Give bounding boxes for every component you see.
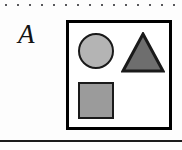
rule-dot <box>29 4 31 6</box>
circle-shape <box>78 33 114 69</box>
rule-dot <box>173 4 175 6</box>
rule-dot <box>113 4 115 6</box>
shape-container <box>66 20 172 130</box>
rule-dot <box>149 4 151 6</box>
rule-dot <box>5 4 7 6</box>
square-shape <box>78 82 114 119</box>
rule-dot <box>89 4 91 6</box>
rule-dot <box>65 4 67 6</box>
triangle-shape <box>121 32 165 73</box>
rule-dot <box>53 4 55 6</box>
rule-dot <box>125 4 127 6</box>
figure-panel: A <box>0 0 182 150</box>
triangle-icon <box>121 32 165 73</box>
horizontal-rule <box>0 140 182 142</box>
rule-dot <box>77 4 79 6</box>
rule-dot <box>41 4 43 6</box>
dotted-rule <box>0 0 182 12</box>
rule-dot <box>17 4 19 6</box>
rule-dot <box>137 4 139 6</box>
rule-dot <box>161 4 163 6</box>
panel-label-a: A <box>18 19 35 49</box>
shape-container-inner <box>69 23 169 127</box>
rule-dot <box>101 4 103 6</box>
